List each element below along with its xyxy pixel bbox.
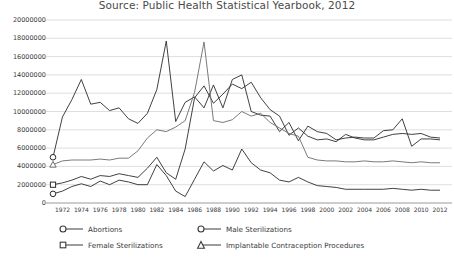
y-axis-tick-label: 4000000 xyxy=(0,162,46,170)
start-marker-abortions xyxy=(50,154,56,160)
y-axis-tick-label: 18000000 xyxy=(0,34,46,42)
y-axis-tick-label: 8000000 xyxy=(0,126,46,134)
y-axis-tick-label: 20000000 xyxy=(0,16,46,24)
start-marker-implantable-contraception-procedures xyxy=(50,161,56,167)
y-axis-tick-label: 6000000 xyxy=(0,144,46,152)
start-marker-male-sterilizations xyxy=(50,191,56,197)
chart-legend: AbortionsMale SterilizationsFemale Steri… xyxy=(0,222,454,262)
chart-container: Source: Public Health Statistical Yearbo… xyxy=(0,0,454,264)
series-start-markers xyxy=(50,154,56,196)
y-axis-tick-label: 16000000 xyxy=(0,53,46,61)
start-marker-female-sterilizations xyxy=(50,182,55,187)
legend-marker-triangle-icon xyxy=(196,240,222,250)
series-line-male-sterilizations xyxy=(53,149,440,197)
series-line-abortions xyxy=(53,41,440,157)
plot-svg xyxy=(0,14,454,210)
y-axis-tick-label: 2000000 xyxy=(0,181,46,189)
legend-item-female-sterilizations[interactable]: Female Sterilizations xyxy=(58,240,163,250)
legend-label: Abortions xyxy=(88,225,122,234)
legend-label: Implantable Contraception Procedures xyxy=(226,241,364,250)
legend-item-male-sterilizations[interactable]: Male Sterilizations xyxy=(196,224,292,234)
series-lines xyxy=(53,41,440,197)
legend-item-implantable-contraception-procedures[interactable]: Implantable Contraception Procedures xyxy=(196,240,364,250)
x-axis-tick-label: 2012 xyxy=(428,206,452,213)
y-axis-tick-label: 10000000 xyxy=(0,108,46,116)
gridlines xyxy=(46,20,452,203)
y-axis-tick-label: 12000000 xyxy=(0,89,46,97)
legend-marker-square-icon xyxy=(58,240,84,250)
legend-item-abortions[interactable]: Abortions xyxy=(58,224,122,234)
plot-area xyxy=(0,14,454,210)
y-axis-tick-label: 0 xyxy=(0,199,46,207)
series-line-female-sterilizations xyxy=(53,82,440,184)
legend-marker-circle-icon xyxy=(196,224,222,234)
legend-marker-circle-icon xyxy=(58,224,84,234)
series-line-implantable-contraception-procedures xyxy=(53,42,440,165)
legend-label: Male Sterilizations xyxy=(226,225,292,234)
chart-title: Source: Public Health Statistical Yearbo… xyxy=(0,0,454,11)
y-axis-tick-label: 14000000 xyxy=(0,71,46,79)
legend-label: Female Sterilizations xyxy=(88,241,163,250)
